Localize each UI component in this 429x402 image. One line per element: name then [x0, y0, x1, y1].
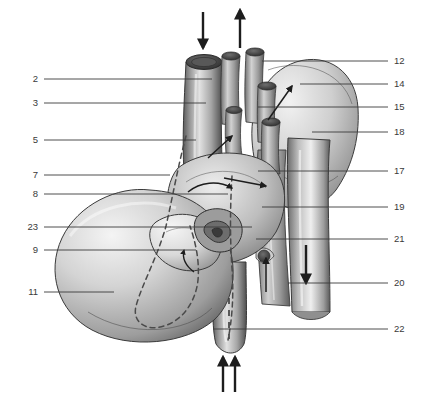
label-number-7: 7 — [8, 170, 38, 180]
label-number-5: 5 — [8, 135, 38, 145]
label-number-15: 15 — [394, 102, 405, 112]
label-number-3: 3 — [8, 98, 38, 108]
label-number-22: 22 — [394, 324, 405, 334]
label-number-21: 21 — [394, 234, 405, 244]
label-number-14: 14 — [394, 79, 405, 89]
heart-illustration — [0, 0, 429, 402]
label-number-18: 18 — [394, 127, 405, 137]
label-number-19: 19 — [394, 202, 405, 212]
label-number-12: 12 — [394, 56, 405, 66]
descending-aorta — [287, 138, 330, 320]
label-number-17: 17 — [394, 166, 405, 176]
label-number-9: 9 — [8, 245, 38, 255]
label-number-2: 2 — [8, 74, 38, 84]
label-number-20: 20 — [394, 278, 405, 288]
label-number-11: 11 — [8, 287, 38, 297]
figure-canvas: 2357823911 121415181719212022 — [0, 0, 429, 402]
label-number-8: 8 — [8, 189, 38, 199]
label-number-23: 23 — [8, 222, 38, 232]
